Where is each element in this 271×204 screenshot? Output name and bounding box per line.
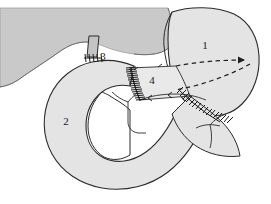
- bile-duct-structure: [87, 36, 99, 57]
- label-3: 3: [100, 50, 106, 62]
- label-4: 4: [149, 74, 155, 86]
- label-2: 2: [63, 115, 69, 127]
- illustration-canvas: 1 2 3 4: [0, 0, 271, 204]
- label-1: 1: [202, 39, 208, 51]
- surgical-illustration-figure: 1 2 3 4: [0, 0, 271, 204]
- bile-duct-body: [87, 36, 99, 57]
